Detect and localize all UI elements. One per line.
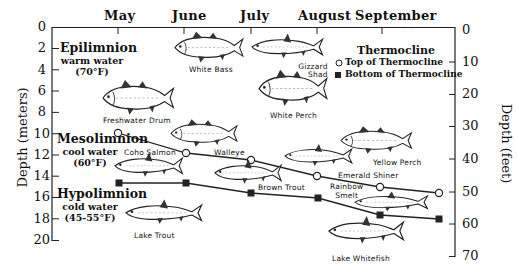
emerald-shiner-fish-icon — [285, 144, 352, 166]
thermocline-fish-depth-diagram: May June July August September 0 2 4 6 8… — [0, 0, 517, 275]
walleye-fish-icon — [171, 119, 237, 147]
left-tick-2: 2 — [26, 40, 46, 55]
month-label-september: September — [355, 8, 437, 23]
zone-mesolimnion: Mesolimnion cool water (60°F) — [57, 131, 123, 168]
zone-mesolimnion-name: Mesolimnion — [57, 131, 123, 146]
lake-trout-fish-icon — [126, 200, 202, 224]
legend-filled-square-icon — [335, 72, 341, 78]
zone-epilimnion-temp: (70°F) — [60, 66, 124, 77]
freshwater-drum-fish-icon — [103, 80, 173, 115]
right-tick-50: 50 — [462, 184, 479, 199]
zone-epilimnion-name: Epilimnion — [60, 40, 124, 55]
right-tick-40: 40 — [462, 151, 479, 166]
right-tick-10: 10 — [462, 54, 479, 69]
zone-mesolimnion-temp: (60°F) — [57, 157, 123, 168]
legend-open-circle-icon — [336, 60, 342, 66]
zone-hypolimnion-temp: (45-55°F) — [57, 212, 123, 223]
left-tick-10: 10 — [30, 126, 50, 141]
fish-label-lake-trout: Lake Trout — [134, 231, 175, 240]
legend-item-bottom-thermocline: Bottom of Thermocline — [345, 69, 462, 79]
month-label-august: August — [298, 8, 351, 23]
zone-hypolimnion-name: Hypolimnion — [57, 186, 123, 201]
fish-label-gizzard-shad-line2: Shad — [294, 71, 328, 79]
left-tick-0: 0 — [26, 19, 46, 34]
left-tick-16: 16 — [30, 189, 50, 204]
month-label-may: May — [104, 8, 135, 23]
left-tick-14: 14 — [30, 168, 50, 183]
fish-label-freshwater-drum: Freshwater Drum — [103, 116, 171, 125]
white-bass-fish-icon — [175, 32, 243, 63]
legend-title: Thermocline — [357, 44, 435, 57]
left-tick-18: 18 — [30, 211, 50, 226]
fish-label-lake-whitefish: Lake Whitefish — [332, 254, 390, 263]
fish-label-rainbow-smelt-line1: Rainbow — [330, 182, 363, 191]
right-tick-60: 60 — [462, 216, 479, 231]
left-tick-20: 20 — [30, 232, 50, 247]
zone-hypolimnion-desc: cold water — [57, 201, 123, 212]
fish-label-emerald-shiner: Emerald Shiner — [338, 171, 398, 180]
right-tick-20: 20 — [462, 86, 479, 101]
fish-label-gizzard-shad: Gizzard Shad — [294, 63, 328, 79]
zone-epilimnion-desc: warm water — [60, 55, 124, 66]
fish-label-rainbow-smelt-line2: Smelt — [330, 191, 363, 200]
fish-label-white-perch: White Perch — [270, 111, 317, 120]
month-label-june: June — [172, 8, 207, 23]
fish-label-brown-trout: Brown Trout — [258, 183, 305, 192]
fish-label-coho-salmon: Coho Salmon — [124, 148, 176, 157]
fish-label-walleye: Walleye — [214, 148, 245, 157]
right-axis-title: Depth (feet) — [499, 94, 514, 194]
right-tick-70: 70 — [462, 248, 479, 263]
zone-hypolimnion: Hypolimnion cold water (45-55°F) — [57, 186, 123, 223]
month-label-july: July — [240, 8, 269, 23]
fish-label-rainbow-smelt: Rainbow Smelt — [330, 182, 363, 200]
left-axis-title: Depth (meters) — [15, 88, 30, 188]
gizzard-shad-fish-icon — [252, 34, 323, 59]
right-tick-30: 30 — [462, 118, 479, 133]
right-tick-0: 0 — [462, 22, 470, 37]
rainbow-smelt-fish-icon — [355, 191, 427, 211]
left-tick-12: 12 — [30, 147, 50, 162]
right-axis-ticks — [449, 62, 455, 257]
left-tick-4: 4 — [26, 62, 46, 77]
fish-label-white-bass: White Bass — [189, 65, 233, 74]
legend-item-top-thermocline: Top of Thermocline — [345, 57, 443, 67]
fish-label-yellow-perch: Yellow Perch — [373, 158, 422, 167]
zone-mesolimnion-desc: cool water — [57, 146, 123, 157]
lake-whitefish-fish-icon — [329, 216, 403, 244]
zone-epilimnion: Epilimnion warm water (70°F) — [60, 40, 124, 77]
brown-trout-fish-icon — [215, 160, 281, 184]
